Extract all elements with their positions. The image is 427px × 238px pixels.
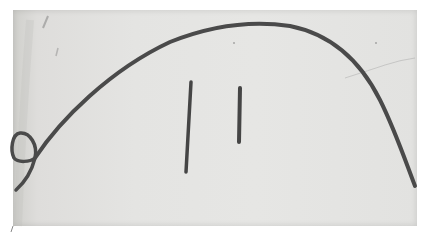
vertical-stroke-left [186, 82, 191, 172]
vertical-stroke-right [239, 88, 240, 142]
drawing [0, 0, 427, 238]
arc-curve [35, 24, 415, 186]
paper-marks [18, 16, 415, 226]
